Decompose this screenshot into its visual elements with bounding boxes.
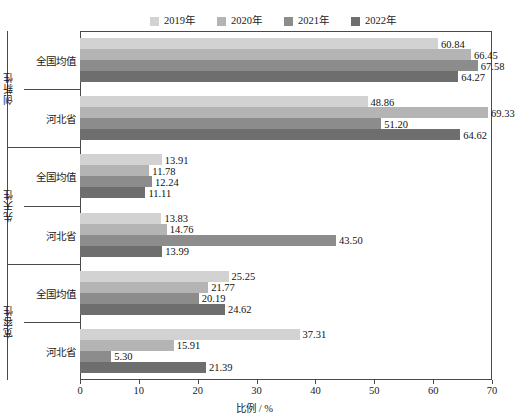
x-axis-tick — [433, 380, 434, 384]
bar-value-label: 25.25 — [232, 271, 256, 282]
x-axis-tick — [374, 380, 375, 384]
y-axis-category-label: 全国均值 — [36, 53, 76, 68]
y-axis-group-title: 宽容性 — [1, 300, 23, 344]
bar — [80, 154, 162, 165]
bar — [80, 96, 368, 107]
legend-swatch-2019 — [150, 17, 159, 26]
bar — [80, 129, 460, 140]
bar-value-label: 5.30 — [114, 351, 132, 362]
bar — [80, 71, 458, 82]
bar-value-label: 14.76 — [170, 224, 194, 235]
legend-swatch-2020 — [217, 17, 226, 26]
x-axis-tick — [139, 380, 140, 384]
bar — [80, 293, 199, 304]
bar — [80, 362, 206, 373]
legend-item-2021: 2021年 — [284, 16, 329, 27]
bar-value-label: 48.86 — [371, 97, 395, 108]
bar-value-label: 60.84 — [441, 39, 465, 50]
legend-label-2021: 2021年 — [298, 16, 329, 27]
bar — [80, 329, 300, 340]
bar — [80, 187, 145, 198]
bar-value-label: 15.91 — [177, 340, 201, 351]
bar — [80, 340, 174, 351]
legend-label-2020: 2020年 — [231, 16, 262, 27]
bar-value-label: 69.33 — [491, 108, 515, 119]
bar — [80, 107, 488, 118]
x-axis-tick-label: 70 — [487, 385, 498, 396]
bar-value-label: 67.58 — [481, 61, 505, 72]
x-axis-tick-label: 50 — [369, 385, 380, 396]
bar — [80, 213, 161, 224]
bar — [80, 49, 471, 60]
bar-value-label: 64.27 — [461, 72, 485, 83]
bar-value-label: 13.99 — [165, 246, 189, 257]
bar-value-label: 43.50 — [339, 235, 363, 246]
y-axis-category-label: 河北省 — [46, 228, 76, 243]
bar-value-label: 21.39 — [209, 362, 233, 373]
x-axis-title: 比例 / % — [0, 400, 509, 415]
bar — [80, 304, 225, 315]
bar-value-label: 66.45 — [474, 50, 498, 61]
x-axis-tick-label: 30 — [251, 385, 262, 396]
plot-area — [80, 31, 492, 380]
legend-label-2019: 2019年 — [164, 16, 195, 27]
bar — [80, 271, 229, 282]
y-axis-inner-separator — [24, 322, 80, 323]
bar — [80, 118, 381, 129]
legend-label-2022: 2022年 — [365, 16, 396, 27]
bar — [80, 246, 162, 257]
y-axis-inner-separator — [24, 89, 80, 90]
x-axis-tick — [80, 380, 81, 384]
y-axis-category-label: 全国均值 — [36, 286, 76, 301]
x-axis-tick — [198, 380, 199, 384]
bar-value-label: 12.24 — [155, 177, 179, 188]
bar — [80, 224, 167, 235]
bar-value-label: 51.20 — [384, 119, 408, 130]
bar — [80, 60, 478, 71]
bar — [80, 235, 336, 246]
legend-swatch-2022 — [351, 17, 360, 26]
bar-value-label: 11.11 — [148, 188, 171, 199]
legend-item-2019: 2019年 — [150, 16, 195, 27]
bar — [80, 165, 149, 176]
bar — [80, 351, 111, 362]
y-axis-inner-separator — [24, 206, 80, 207]
x-axis-tick-label: 20 — [192, 385, 203, 396]
x-axis-tick-label: 0 — [77, 385, 82, 396]
bar-value-label: 37.31 — [303, 329, 327, 340]
legend-item-2022: 2022年 — [351, 16, 396, 27]
bar-value-label: 13.91 — [165, 155, 189, 166]
x-axis-tick-label: 40 — [310, 385, 321, 396]
y-axis-group-separator — [7, 264, 80, 265]
y-axis-group-separator — [7, 147, 80, 148]
y-axis-category-label: 全国均值 — [36, 169, 76, 184]
y-axis-category-label: 河北省 — [46, 344, 76, 359]
y-axis-category-label: 河北省 — [46, 111, 76, 126]
bar-value-label: 20.19 — [202, 293, 226, 304]
chart-legend: 2019年 2020年 2021年 2022年 — [150, 12, 480, 30]
bar — [80, 176, 152, 187]
y-axis-group-title: 先天性 — [1, 184, 23, 228]
bar-value-label: 24.62 — [228, 304, 252, 315]
legend-item-2020: 2020年 — [217, 16, 262, 27]
bar — [80, 38, 438, 49]
x-axis-tick — [315, 380, 316, 384]
bar-value-label: 64.62 — [463, 130, 487, 141]
bar-value-label: 11.78 — [152, 166, 175, 177]
x-axis-tick — [492, 380, 493, 384]
bar-value-label: 13.83 — [164, 213, 188, 224]
x-axis-tick-label: 60 — [428, 385, 439, 396]
x-axis-tick-label: 10 — [134, 385, 145, 396]
legend-swatch-2021 — [284, 17, 293, 26]
y-axis-group-title: 创新性 — [1, 67, 23, 111]
bar — [80, 282, 208, 293]
x-axis-tick — [257, 380, 258, 384]
bar-value-label: 21.77 — [211, 282, 235, 293]
